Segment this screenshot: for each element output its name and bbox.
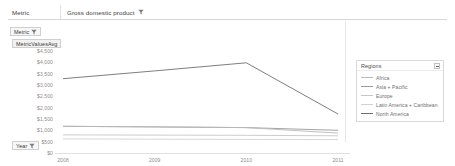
x-axis-tick: 2008 <box>57 157 69 163</box>
legend-item[interactable]: Europe <box>361 91 443 100</box>
legend-item-label: North America <box>376 111 409 117</box>
legend-item[interactable]: North America <box>361 109 443 118</box>
plot-lines <box>55 51 350 153</box>
series-line <box>63 63 338 114</box>
filter-field-label: Metric <box>8 9 60 16</box>
legend-color-swatch <box>361 86 373 87</box>
filter-value-control[interactable]: Gross domestic product <box>60 5 447 19</box>
y-axis: $4,500$4,000$3,500$3,000$2,500$2,000$1,5… <box>16 51 53 153</box>
legend-color-swatch <box>361 77 373 78</box>
legend-panel[interactable]: Regions AfricaAsia + PacificEuropeLatin … <box>356 60 444 122</box>
plot-area[interactable] <box>55 51 350 153</box>
x-axis-line <box>55 153 350 154</box>
y-axis-tick: $3,000 <box>19 82 53 88</box>
y-axis-tick: $4,500 <box>19 48 53 54</box>
filter-bar: Metric Gross domestic product <box>8 5 447 20</box>
y-axis-tick: $4,000 <box>19 59 53 65</box>
legend-item[interactable]: Asia + Pacific <box>361 82 443 91</box>
y-axis-tick: $2,000 <box>19 105 53 111</box>
x-axis-tick: 2010 <box>241 157 253 163</box>
legend-color-swatch <box>361 113 373 114</box>
y-axis-tick: $3,500 <box>19 71 53 77</box>
x-axis-tick: 2009 <box>149 157 161 163</box>
minimize-icon[interactable] <box>434 63 440 69</box>
legend-item-label: Asia + Pacific <box>376 84 408 90</box>
legend-item-label: Latin America + Caribbean <box>376 102 438 108</box>
panel-divider <box>345 21 346 142</box>
y-axis-tick: $0 <box>19 150 53 156</box>
filter-sort-icon[interactable] <box>138 9 144 15</box>
legend-items: AfricaAsia + PacificEuropeLatin America … <box>357 71 443 118</box>
legend-item-label: Africa <box>376 75 389 81</box>
y-axis-tick: $500 <box>19 139 53 145</box>
legend-item-label: Europe <box>376 93 393 99</box>
legend-color-swatch <box>361 95 373 96</box>
legend-item[interactable]: Africa <box>361 73 443 82</box>
filter-value-text: Gross domestic product <box>67 9 135 16</box>
y-axis-tick: $1,500 <box>19 116 53 122</box>
y-axis-tick: $2,500 <box>19 93 53 99</box>
legend-color-swatch <box>361 104 373 105</box>
dashboard-root: Metric Gross domestic product Metric Met… <box>0 0 455 166</box>
series-line <box>63 126 338 133</box>
series-line <box>63 139 338 140</box>
legend-title: Regions <box>361 63 381 69</box>
legend-item[interactable]: Latin America + Caribbean <box>361 100 443 109</box>
y-axis-tick: $1,000 <box>19 127 53 133</box>
series-line <box>63 135 338 136</box>
legend-header: Regions <box>357 61 443 71</box>
x-axis-tick: 2011 <box>332 157 343 163</box>
